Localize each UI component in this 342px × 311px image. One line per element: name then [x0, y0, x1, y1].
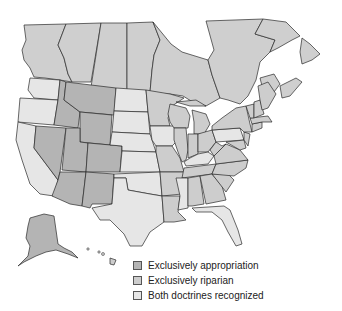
- state-south-dakota: [112, 111, 150, 134]
- swatch-both: [133, 291, 142, 300]
- legend-label: Exclusively appropriation: [148, 260, 259, 271]
- swatch-appropriation: [133, 261, 142, 270]
- united-states: [16, 78, 276, 266]
- state-new-york: [212, 106, 252, 132]
- state-colorado: [86, 143, 122, 172]
- state-new-mexico: [82, 172, 114, 208]
- state-wisconsin: [168, 104, 190, 128]
- map-legend: Exclusively appropriation Exclusively ri…: [133, 258, 264, 303]
- swatch-riparian: [133, 276, 142, 285]
- state-north-dakota: [114, 88, 148, 112]
- state-hawaii: [87, 248, 116, 265]
- legend-label: Both doctrines recognized: [148, 290, 264, 301]
- legend-label: Exclusively riparian: [148, 275, 234, 286]
- legend-item-appropriation: Exclusively appropriation: [133, 258, 264, 272]
- state-pennsylvania: [212, 128, 244, 142]
- state-florida: [192, 206, 242, 246]
- legend-item-riparian: Exclusively riparian: [133, 273, 264, 287]
- state-washington: [28, 78, 60, 100]
- state-oregon: [18, 98, 58, 125]
- legend-item-both: Both doctrines recognized: [133, 288, 264, 302]
- state-alaska: [18, 214, 78, 266]
- state-wyoming: [80, 112, 112, 145]
- region-nova-scotia: [280, 78, 302, 98]
- state-kansas: [120, 151, 160, 172]
- region-newfoundland: [300, 38, 320, 64]
